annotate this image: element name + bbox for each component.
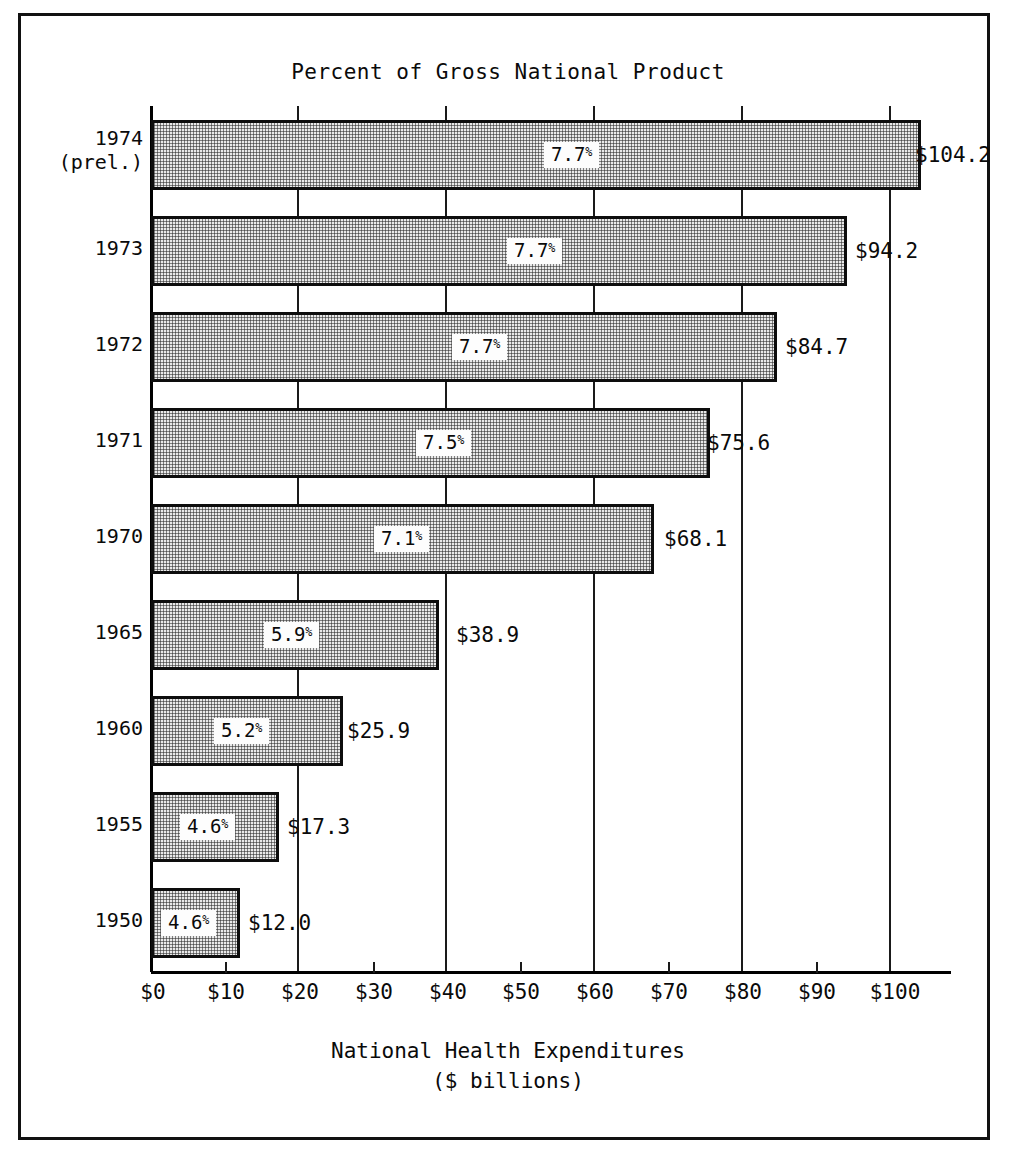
bar-percent-label: 7.1% xyxy=(374,526,429,552)
x-tick-label: $100 xyxy=(870,980,921,1004)
bar-percent-label: 7.7% xyxy=(452,334,507,360)
x-tick-label: $60 xyxy=(576,980,614,1004)
bar-percent-label: 7.5% xyxy=(416,430,471,456)
x-axis-tick-labels: $0 $10 $20 $30 $40 $50 $60 $70 $80 $90 $… xyxy=(0,980,1016,1014)
bar-1974[interactable]: 7.7% xyxy=(151,120,921,190)
bar-value-label: $25.9 xyxy=(347,719,410,743)
bar-value-label: $84.7 xyxy=(785,335,848,359)
category-axis-labels: 1974 (prel.) 1973 1972 1971 1970 1965 19… xyxy=(0,106,143,972)
year-label: 1950 xyxy=(95,908,143,932)
x-tick-label: $90 xyxy=(798,980,836,1004)
bar-value-label: $38.9 xyxy=(456,623,519,647)
x-tick-label: $80 xyxy=(724,980,762,1004)
x-tick-label: $70 xyxy=(650,980,688,1004)
x-tick-50 xyxy=(520,962,522,973)
bar-1972[interactable]: 7.7% xyxy=(151,312,777,382)
chart-title: Percent of Gross National Product xyxy=(0,60,1016,84)
bar-value-label: $68.1 xyxy=(664,527,727,551)
x-tick-label: $10 xyxy=(207,980,245,1004)
gridline-100 xyxy=(889,106,891,972)
bar-value-label: $17.3 xyxy=(287,815,350,839)
x-tick-10 xyxy=(225,962,227,973)
bar-value-label: $12.0 xyxy=(248,911,311,935)
x-tick-label: $20 xyxy=(281,980,319,1004)
x-tick-90 xyxy=(816,962,818,973)
bar-value-label: $75.6 xyxy=(707,431,770,455)
year-label: 1973 xyxy=(95,236,143,260)
bar-value-label: $94.2 xyxy=(855,239,918,263)
bar-percent-label: 4.6% xyxy=(180,814,235,840)
bar-1955[interactable]: 4.6% xyxy=(151,792,279,862)
bar-1971[interactable]: 7.5% xyxy=(151,408,710,478)
year-label: 1972 xyxy=(95,332,143,356)
year-label: 1955 xyxy=(95,812,143,836)
year-label: 1970 xyxy=(95,524,143,548)
year-label: 1965 xyxy=(95,620,143,644)
bar-percent-label: 4.6% xyxy=(161,910,216,936)
year-label: 1971 xyxy=(95,428,143,452)
x-tick-70 xyxy=(668,962,670,973)
bar-1960[interactable]: 5.2% xyxy=(151,696,343,766)
bar-percent-label: 5.9% xyxy=(264,622,319,648)
bar-1970[interactable]: 7.1% xyxy=(151,504,654,574)
bar-1973[interactable]: 7.7% xyxy=(151,216,847,286)
bar-percent-label: 7.7% xyxy=(544,142,599,168)
plot-area: 7.7% $104.2 7.7% $94.2 7.7% $84.7 7.5% $… xyxy=(151,106,890,972)
x-axis-subtitle: ($ billions) xyxy=(0,1066,1016,1096)
x-tick-label: $40 xyxy=(429,980,467,1004)
x-axis-caption: National Health Expenditures ($ billions… xyxy=(0,1036,1016,1097)
x-axis-title: National Health Expenditures xyxy=(0,1036,1016,1066)
x-axis-line xyxy=(151,971,951,974)
year-label: 1960 xyxy=(95,716,143,740)
bar-1965[interactable]: 5.9% xyxy=(151,600,439,670)
bar-1950[interactable]: 4.6% xyxy=(151,888,240,958)
x-tick-30 xyxy=(373,962,375,973)
year-label: 1974 (prel.) xyxy=(59,126,143,175)
x-tick-label: $50 xyxy=(502,980,540,1004)
bar-percent-label: 5.2% xyxy=(214,718,269,744)
bar-value-label: $104.2 xyxy=(915,143,991,167)
bar-percent-label: 7.7% xyxy=(507,238,562,264)
x-tick-label: $0 xyxy=(140,980,165,1004)
x-tick-label: $30 xyxy=(355,980,393,1004)
